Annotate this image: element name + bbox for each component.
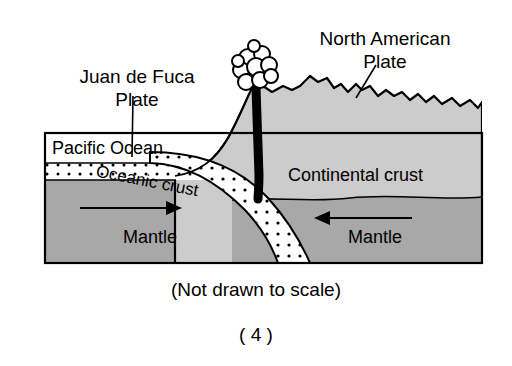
label-continental-crust: Continental crust <box>288 165 423 185</box>
label-pacific-ocean: Pacific Ocean <box>52 138 163 158</box>
caption-not-drawn-to-scale: (Not drawn to scale) <box>171 279 341 300</box>
label-north-american-line2: Plate <box>363 51 406 72</box>
label-mantle-left: Mantle <box>123 227 177 247</box>
subduction-zone-diagram: Juan de Fuca Plate North American Plate … <box>0 0 512 366</box>
label-north-american-line1: North American <box>320 28 451 49</box>
volcano-ash-cloud-icon <box>232 40 278 90</box>
plate-tectonics-figure: Juan de Fuca Plate North American Plate … <box>0 0 512 366</box>
label-juan-de-fuca-line2: Plate <box>115 89 158 110</box>
label-mantle-right: Mantle <box>348 227 402 247</box>
caption-choice-number: ( 4 ) <box>239 324 273 345</box>
magma-conduit-icon <box>256 88 259 199</box>
label-juan-de-fuca-line1: Juan de Fuca <box>79 66 195 87</box>
